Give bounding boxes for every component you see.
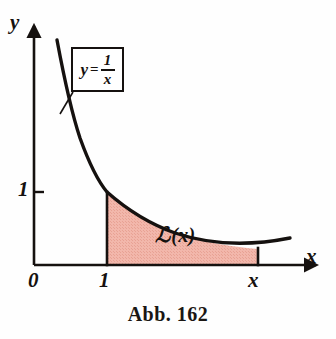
curve-equation-callout-box: y = 1 x: [71, 47, 124, 92]
equation-fraction: 1 x: [101, 53, 115, 87]
plot-canvas: [0, 0, 336, 339]
y-axis-label: y: [10, 10, 19, 35]
region-label-argument: (x): [171, 224, 195, 246]
equation-equals-sign: =: [90, 61, 99, 78]
figure-caption: Abb. 162: [0, 303, 336, 326]
origin-tick-label: 0: [28, 268, 39, 293]
fraction-denominator: x: [104, 71, 112, 87]
equation-left-side: y: [80, 60, 88, 80]
shaded-region-label: ℒ(x): [155, 222, 196, 247]
curve-equation-content: y = 1 x: [73, 49, 122, 90]
figure-container: y x 0 1 x 1 ℒ(x) y = 1 x Abb. 162: [0, 0, 336, 339]
x-tick-label-x: x: [248, 268, 259, 293]
fraction-numerator: 1: [104, 53, 112, 69]
y-tick-label-one: 1: [18, 177, 29, 202]
script-l-glyph: ℒ: [155, 222, 171, 247]
x-axis-label: x: [306, 244, 317, 269]
x-tick-label-one: 1: [99, 268, 110, 293]
